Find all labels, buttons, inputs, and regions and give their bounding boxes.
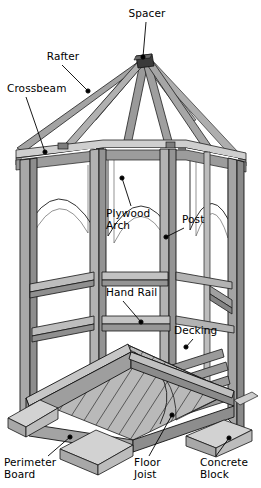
label-rafter: Rafter <box>40 51 86 63</box>
leader-dot-rafter <box>86 89 90 93</box>
gazebo-illustration <box>0 0 261 488</box>
label-plywood-arch: Plywood Arch <box>106 208 158 231</box>
leader-dot-post <box>164 235 168 239</box>
label-crossbeam: Crossbeam <box>7 83 67 95</box>
label-spacer: Spacer <box>121 8 173 20</box>
leader-dot-decking <box>184 345 188 349</box>
gazebo-parts-diagram: SpacerRafterCrossbeamPlywood ArchPostHan… <box>0 0 261 488</box>
leader-dot-hand-rail <box>139 320 143 324</box>
label-concrete-block: Concrete Block <box>200 457 254 480</box>
label-hand-rail: Hand Rail <box>106 287 160 299</box>
leader-dot-floor-joist <box>170 413 174 417</box>
leader-dot-crossbeam <box>43 150 47 154</box>
leader-line-spacer <box>143 22 146 57</box>
leader-dot-spacer <box>141 55 145 59</box>
label-decking: Decking <box>174 325 220 337</box>
label-post: Post <box>182 214 214 226</box>
label-perimeter-board: Perimeter Board <box>4 457 62 480</box>
leader-dot-perimeter-board <box>68 435 72 439</box>
leader-dot-plywood-arch <box>120 176 124 180</box>
hand-rail-middle <box>102 272 168 286</box>
label-floor-joist: Floor Joist <box>134 457 172 480</box>
hand-rail-lower-middle <box>102 316 170 331</box>
leader-dot-concrete-block <box>227 436 231 440</box>
